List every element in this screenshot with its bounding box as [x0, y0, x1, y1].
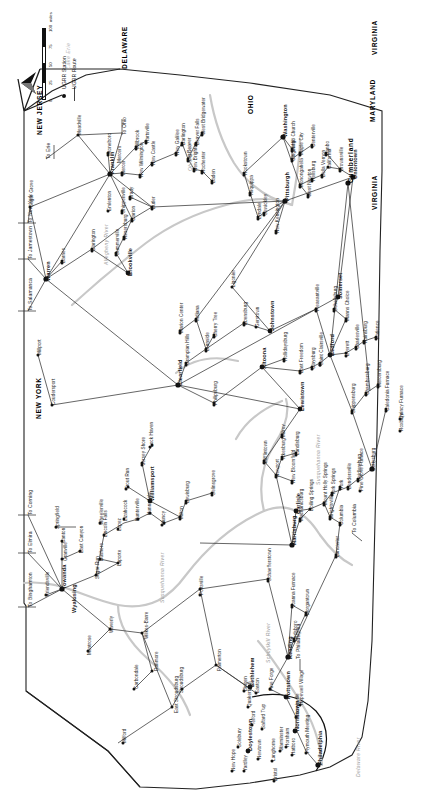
- city-label-major: Lewistown: [300, 382, 306, 412]
- place-label: Langhorne: [272, 738, 277, 761]
- place-label: Ickesburg: [282, 438, 287, 459]
- place-label: Hunnydale: [148, 492, 153, 515]
- place-label: Dushore: [100, 543, 105, 561]
- water-label: Susquehanna River: [316, 434, 321, 485]
- place-label: Schellsburg: [334, 286, 339, 311]
- city-label-major: Harrisburg: [292, 515, 298, 545]
- place-label: Stoneboro: [108, 133, 113, 155]
- place-label: Milton: [180, 506, 185, 519]
- place-label: East Freedom: [300, 343, 305, 373]
- place-label: Beaver Falls: [196, 118, 201, 145]
- place-label: Hatboro: [292, 738, 297, 755]
- place-label: Carbondale: [135, 664, 140, 689]
- place-label: Wrightsville: [330, 494, 335, 519]
- place-label: Indiana: [196, 305, 201, 321]
- place-label: Saint Clairsville: [320, 332, 325, 365]
- place-label: Friendsville: [46, 572, 51, 596]
- scale-tick-75: 75: [48, 44, 53, 49]
- place-label: Millbrook: [136, 130, 141, 149]
- route-destination-label: To New York: [28, 194, 33, 223]
- place-label: Rainsburg: [364, 321, 369, 343]
- place-label: Laporte: [118, 550, 123, 566]
- place-label: Emlenton: [108, 191, 113, 211]
- legend-route-label: UGRR Route: [71, 58, 77, 89]
- place-label: Selinsgrove: [212, 470, 217, 495]
- place-label: Montrose: [88, 635, 93, 655]
- state-label: VIRGINIA: [372, 175, 379, 210]
- place-label: Charlesville: [356, 324, 361, 349]
- city-label-major: Bedford: [330, 334, 336, 356]
- place-label: Milford: [123, 729, 128, 743]
- scale-tick-25: 25: [48, 80, 53, 85]
- place-label: Warminster: [280, 727, 285, 751]
- place-label: Telford: [252, 711, 257, 726]
- north-arrow-icon: [20, 70, 38, 96]
- place-label: New Castle: [152, 141, 157, 166]
- legend-station-symbol: [62, 94, 66, 98]
- city-label-major: Altoona: [262, 347, 268, 369]
- place-label: Grampian Hills: [186, 333, 191, 365]
- city-label-major: Warren: [46, 261, 52, 281]
- place-label: Lopez: [118, 518, 123, 531]
- place-label: Mercer: [122, 160, 127, 175]
- scale-units: miles: [48, 12, 53, 22]
- place-label: Horsham: [286, 728, 291, 747]
- place-label: Barnes: [62, 248, 67, 263]
- place-label: Shippensburg: [352, 383, 357, 413]
- place-label: Mifflintown: [264, 440, 269, 463]
- place-label: Newtown: [258, 739, 263, 759]
- place-label: York: [340, 480, 345, 489]
- place-label: Rochester: [202, 151, 207, 173]
- place-label: Morgantown: [306, 589, 311, 615]
- place-label: Mercersburg: [378, 360, 383, 387]
- place-label: Easton: [256, 678, 261, 693]
- legend-station-label: UGRR Station: [61, 56, 67, 89]
- city-label-major: Wyalusing: [72, 584, 78, 613]
- route-destination-label: To Elmira: [28, 531, 33, 553]
- map-canvas: NEW JERSEYDELAWARENEW YORKMARYLANDVIRGIN…: [0, 0, 427, 811]
- place-label: Hartsville: [146, 123, 151, 143]
- place-label: Burnside: [206, 332, 211, 351]
- route-destination-label: To Ohio: [122, 117, 127, 135]
- place-label: Baden: [212, 169, 217, 183]
- place-label: West Bridgewater: [202, 97, 207, 135]
- place-label: Milroy: [282, 424, 287, 437]
- place-label: Quakertown: [248, 681, 253, 707]
- place-label: Everett: [346, 341, 351, 356]
- legend-route-symbol: [74, 87, 75, 101]
- place-label: Big Beaver: [188, 138, 193, 161]
- route-destination-label: To Philadelphia: [296, 624, 301, 659]
- place-label: Schaefferstown: [268, 548, 273, 581]
- city-label-major: Somerset: [338, 273, 344, 299]
- place-label: Bendersville: [348, 463, 353, 489]
- place-label: Mount Holly Springs: [324, 462, 329, 505]
- place-label: Yardley: [244, 755, 249, 771]
- state-label: OHIO: [248, 94, 255, 114]
- place-label: Sewickley: [264, 194, 269, 215]
- water-label: Delaware River: [356, 737, 361, 777]
- place-label: Columbia: [340, 505, 345, 525]
- place-label: Coudersport: [52, 379, 57, 405]
- place-label: Patience: [376, 320, 381, 339]
- place-label: Rimersburg: [124, 214, 129, 239]
- city-label-major: Brookville: [128, 248, 134, 276]
- place-label: Lizahcock: [124, 500, 129, 521]
- place-label: Ginger Hill: [292, 138, 297, 161]
- place-label: Clarion: [132, 206, 137, 221]
- place-label: Millport: [38, 339, 43, 355]
- place-label: Shippenville: [122, 187, 127, 213]
- scale-tick-50: 50: [48, 62, 53, 67]
- place-label: Palmerton: [218, 649, 223, 671]
- place-label: West Newton: [308, 169, 313, 197]
- city-label-major: Johnstown: [270, 301, 276, 331]
- place-label: York Springs: [332, 468, 337, 495]
- place-label: Hollidaysburg: [284, 332, 289, 361]
- place-label: Boiling Springs: [310, 479, 315, 511]
- place-label: Lock Haven: [150, 422, 155, 447]
- place-label: Mechanicsburg: [300, 489, 305, 521]
- place-label: Claysburg: [312, 347, 317, 369]
- place-label: Bingen: [244, 676, 249, 691]
- route-destination-label: To Salamanca: [28, 278, 33, 311]
- place-label: Stroudsburg: [180, 667, 185, 693]
- place-label: Butler: [152, 196, 157, 209]
